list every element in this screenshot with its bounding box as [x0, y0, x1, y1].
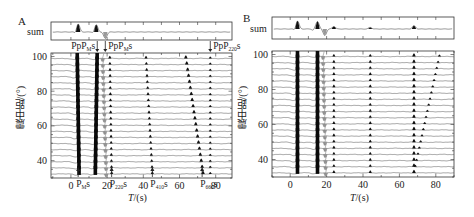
phase-label-top: PpP220s: [208, 41, 241, 52]
trace-gather-plot: 020406080406080100: [253, 49, 454, 191]
panel-a-sum-label: sum: [27, 27, 44, 37]
x-tick-label: 0: [68, 180, 73, 191]
panel-a-letter: A: [18, 16, 26, 27]
y-tick-label: 100: [32, 51, 47, 62]
panel-b-sum-label: sum: [250, 24, 267, 34]
svg-text:PpP220s: PpP220s: [213, 41, 241, 52]
y-tick-label: 100: [253, 49, 268, 60]
svg-text:P220s: P220s: [110, 179, 128, 190]
x-tick-label: 80: [431, 179, 441, 190]
svg-text:P410s: P410s: [150, 179, 168, 190]
svg-text:PpPMs: PpPMs: [108, 41, 132, 52]
phase-label-top: PpPMs: [103, 41, 132, 52]
svg-text:P660s: P660s: [200, 179, 218, 190]
panel-a-y-axis-label: 震中距/(°): [16, 86, 26, 129]
x-tick-label: 60: [175, 180, 185, 191]
panel-a-x-axis-label: T/(s): [128, 193, 147, 203]
sum-waveform: [274, 21, 452, 35]
y-tick-label: 60: [258, 119, 268, 130]
x-tick-label: 0: [288, 179, 293, 190]
panel-b-y-axis-label: 震中距/(°): [238, 86, 248, 129]
panel-b-x-axis-label: T/(s): [350, 193, 369, 203]
y-tick-label: 80: [258, 84, 268, 95]
phase-label-top: PpPMs: [71, 41, 99, 52]
y-tick-label: 40: [37, 155, 47, 166]
svg-text:PMs: PMs: [76, 179, 90, 190]
y-tick-label: 40: [258, 154, 268, 165]
x-axis-unit: /(s): [134, 192, 147, 203]
sum-trace-box: [272, 17, 454, 39]
sum-trace-box: [51, 22, 232, 40]
x-tick-label: 20: [322, 179, 332, 190]
panel-b: 020406080406080100: [253, 17, 454, 190]
svg-text:PpPMs: PpPMs: [71, 41, 95, 52]
y-tick-label: 80: [37, 86, 47, 97]
y-tick-label: 60: [37, 120, 47, 131]
x-tick-label: 40: [138, 180, 148, 191]
x-axis-unit: /(s): [356, 192, 369, 203]
x-tick-label: 40: [358, 179, 368, 190]
x-tick-label: 60: [394, 179, 404, 190]
panel-a: 020406080406080100PpPMsPpPMsPpP220sPMsP2…: [32, 22, 241, 191]
